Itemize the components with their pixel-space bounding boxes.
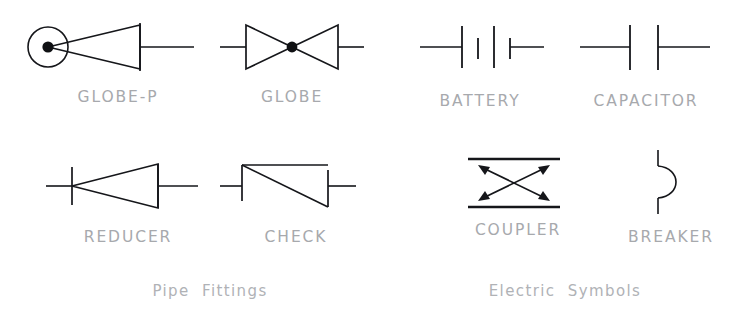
globe-valve-with-positioner-icon [18, 14, 218, 80]
symbol-label: CAPACITOR [593, 94, 698, 110]
symbol-globe: GLOBE [212, 14, 372, 106]
symbol-reducer: REDUCER [40, 156, 216, 246]
symbol-label: CHECK [265, 230, 328, 246]
caption-electric-symbols: Electric Symbols [400, 284, 730, 299]
coupler-crossed-arrows-icon [440, 152, 596, 214]
symbol-label: REDUCER [84, 230, 173, 246]
capacitor-icon [566, 14, 726, 80]
symbol-label: BREAKER [628, 230, 714, 246]
symbol-label: GLOBE-P [78, 90, 159, 106]
symbol-label: COUPLER [475, 223, 561, 239]
symbol-label: BATTERY [439, 94, 520, 110]
check-valve-icon [216, 156, 376, 216]
symbol-globe-p: GLOBE-P [18, 14, 218, 106]
breaker-half-loop-icon [596, 146, 736, 218]
symbol-battery: BATTERY [404, 14, 556, 110]
globe-valve-bowtie-icon [212, 14, 372, 80]
battery-cell-icon [404, 14, 556, 80]
symbol-label: GLOBE [261, 90, 323, 106]
symbol-legend-sheet: GLOBE-P GLOBE [0, 0, 736, 331]
reducer-icon [40, 156, 216, 216]
symbol-breaker: BREAKER [596, 146, 736, 246]
caption-pipe-fittings: Pipe Fittings [30, 284, 390, 299]
symbol-check: CHECK [216, 156, 376, 246]
symbol-coupler: COUPLER [440, 152, 596, 239]
symbol-capacitor: CAPACITOR [566, 14, 726, 110]
